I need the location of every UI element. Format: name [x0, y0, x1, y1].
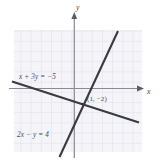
equation-label-line-steep: 2x − y = 4 — [17, 131, 49, 139]
intersection-marker — [81, 103, 83, 105]
y-axis-label: y — [76, 3, 79, 12]
x-axis-label: x — [147, 87, 150, 96]
graph-figure: x + 3y = −5 2x − y = 4 x y (1, −2) — [0, 0, 161, 162]
intersection-point-label: (1, −2) — [87, 95, 107, 103]
y-axis-arrow — [71, 12, 77, 19]
equation-label-line-shallow: x + 3y = −5 — [19, 73, 56, 81]
